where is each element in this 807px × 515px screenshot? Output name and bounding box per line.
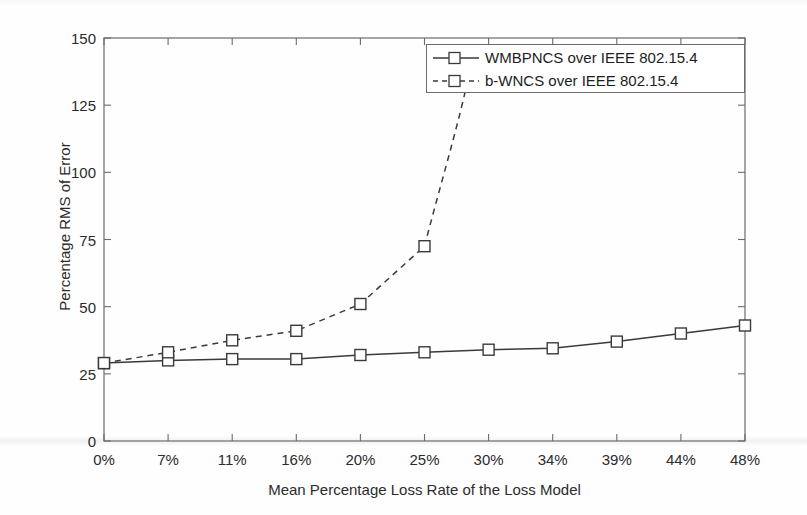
x-tick-label: 25% (409, 451, 439, 468)
data-point-marker (163, 347, 174, 358)
data-point-marker (227, 354, 238, 365)
y-tick-label: 0 (40, 433, 96, 450)
data-point-marker (355, 299, 366, 310)
data-point-marker (99, 358, 110, 369)
series-line (104, 246, 425, 363)
plot-frame (104, 38, 745, 441)
series-wmbpncs (99, 320, 751, 369)
data-point-marker (227, 335, 238, 346)
x-tick-label: 16% (281, 451, 311, 468)
data-point-marker (547, 343, 558, 354)
data-point-marker (291, 325, 302, 336)
legend-label-wmbpncs: WMBPNCS over IEEE 802.15.4 (485, 49, 698, 66)
data-point-marker (291, 354, 302, 365)
x-axis-title: Mean Percentage Loss Rate of the Loss Mo… (104, 481, 745, 498)
data-point-marker (611, 336, 622, 347)
data-point-marker (675, 328, 686, 339)
x-tick-label: 20% (345, 451, 375, 468)
x-tick-label: 48% (730, 451, 760, 468)
data-point-marker (419, 347, 430, 358)
data-point-marker (740, 320, 751, 331)
legend-entry-wmbpncs: WMBPNCS over IEEE 802.15.4 (433, 46, 698, 69)
axes-group (104, 38, 745, 441)
x-tick-label: 0% (93, 451, 115, 468)
x-tick-label: 44% (666, 451, 696, 468)
x-tick-label: 39% (602, 451, 632, 468)
data-point-marker (483, 344, 494, 355)
x-tick-label: 30% (474, 451, 504, 468)
legend-sample-dashed-line-icon (433, 73, 479, 89)
y-tick-label: 25 (40, 365, 96, 382)
x-tick-label: 7% (157, 451, 179, 468)
x-tick-label: 11% (218, 451, 247, 468)
data-point-marker (355, 350, 366, 361)
series-bwncs (99, 44, 475, 369)
chart-legend: WMBPNCS over IEEE 802.15.4 b-WNCS over I… (426, 44, 745, 93)
y-axis-title: Percentage RMS of Error (56, 97, 73, 357)
legend-entry-bwncs: b-WNCS over IEEE 802.15.4 (433, 69, 678, 92)
y-tick-label: 150 (40, 30, 96, 47)
legend-label-bwncs: b-WNCS over IEEE 802.15.4 (485, 72, 678, 89)
chart-figure: 0255075100125150 0%7%11%16%20%25%30%34%3… (0, 0, 807, 515)
data-point-marker (419, 241, 430, 252)
x-tick-label: 34% (538, 451, 568, 468)
legend-sample-solid-line-icon (433, 50, 479, 66)
